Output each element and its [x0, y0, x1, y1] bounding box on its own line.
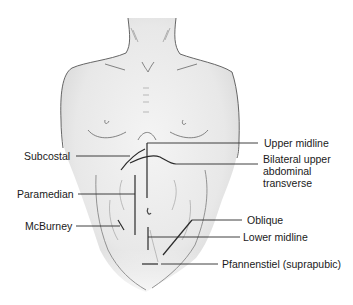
label-bilateral-line3: transverse: [263, 177, 312, 189]
label-upper-midline: Upper midline: [264, 137, 329, 149]
label-pfannenstiel: Pfannenstiel (suprapubic): [222, 258, 341, 270]
label-mcburney: McBurney: [25, 220, 72, 232]
label-bilateral-line2: abdominal: [263, 165, 311, 177]
label-paramedian: Paramedian: [17, 188, 74, 200]
incision-diagram: Upper midline Subcostal Bilateral upper …: [0, 0, 353, 305]
label-bilateral-line1: Bilateral upper: [263, 153, 331, 165]
label-oblique: Oblique: [247, 214, 283, 226]
label-subcostal: Subcostal: [24, 150, 70, 162]
label-lower-midline: Lower midline: [243, 231, 308, 243]
